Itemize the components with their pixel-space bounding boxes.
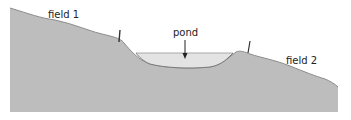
label-field-2: field 2: [286, 56, 317, 66]
label-field-1: field 1: [48, 10, 79, 20]
fence-post-left: [119, 30, 120, 42]
label-pond: pond: [173, 28, 198, 38]
fence-post-right: [248, 41, 250, 53]
